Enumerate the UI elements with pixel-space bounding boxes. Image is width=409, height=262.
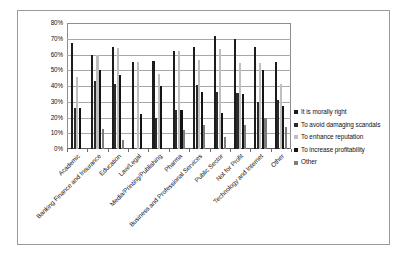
legend-item: To enhance reputation — [294, 131, 394, 144]
y-axis-tick-label: 80% — [51, 20, 63, 26]
legend-item: Other — [294, 156, 394, 169]
bar-group — [87, 23, 107, 149]
bar-chart-plot-area: 80%70%60%50%40%30%20%10%0% — [67, 23, 291, 149]
y-axis-tick-label: 20% — [51, 114, 63, 120]
legend-swatch-icon — [294, 161, 298, 165]
legend-swatch-icon — [294, 148, 298, 152]
legend-swatch-icon — [294, 135, 298, 139]
legend-label: To increase profitability — [301, 147, 365, 153]
bar — [79, 108, 81, 149]
legend-label: Other — [301, 159, 317, 165]
bar-group — [128, 23, 148, 149]
chart-legend: It is morally rightTo avoid damaging sca… — [294, 106, 394, 169]
y-axis-tick-label: 50% — [51, 67, 63, 73]
legend-item: To increase profitability — [294, 144, 394, 157]
y-axis-tick-label: 10% — [51, 130, 63, 136]
y-axis-tick-label: 60% — [51, 51, 63, 57]
legend-label: It is morally right — [301, 109, 347, 115]
legend-item: It is morally right — [294, 106, 394, 119]
y-axis-tick-label: 70% — [51, 36, 63, 42]
legend-label: To avoid damaging scandals — [301, 122, 380, 128]
y-axis-tick-label: 40% — [51, 83, 63, 89]
x-axis-category-labels: AcademicBanking Finance and InsuranceEdu… — [67, 151, 307, 241]
x-axis-category-label: Other — [270, 153, 286, 169]
legend-swatch-icon — [294, 123, 298, 127]
bar-group — [67, 23, 87, 149]
bar-group — [148, 23, 168, 149]
y-axis-tick-label: 0% — [54, 146, 63, 152]
legend-swatch-icon — [294, 110, 298, 114]
bar-group — [189, 23, 209, 149]
legend-label: To enhance reputation — [301, 134, 363, 140]
chart-frame: 80%70%60%50%40%30%20%10%0% AcademicBanki… — [17, 10, 390, 245]
y-axis-tick-label: 30% — [51, 99, 63, 105]
legend-item: To avoid damaging scandals — [294, 119, 394, 132]
